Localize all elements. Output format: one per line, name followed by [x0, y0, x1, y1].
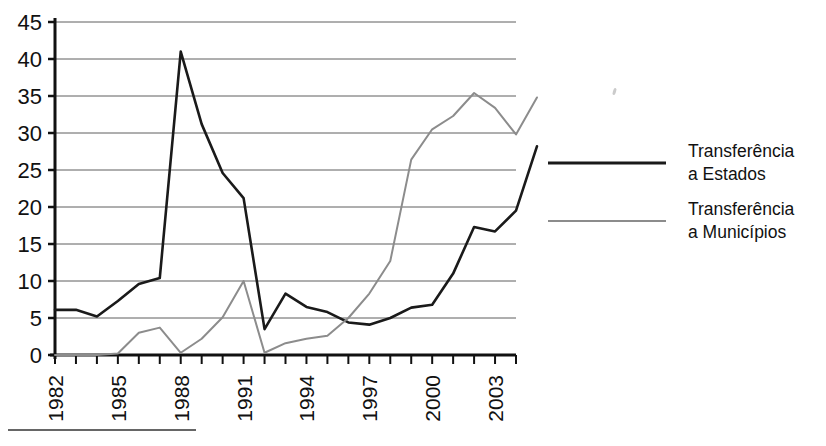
x-tick-label-2000: 2000	[421, 375, 444, 422]
y-tick-label-40: 40	[18, 47, 42, 72]
y-tick-label-10: 10	[18, 269, 42, 294]
y-tick-label-30: 30	[18, 121, 42, 146]
x-tick-label-2003: 2003	[484, 375, 507, 422]
x-tick-label-1991: 1991	[233, 375, 256, 422]
legend-label-estados: Transferência a Estados	[688, 140, 794, 186]
chart-series-lines	[55, 52, 537, 355]
legend-label-municipios: Transferência a Municípios	[688, 198, 794, 244]
x-tick-label-1985: 1985	[107, 375, 130, 422]
y-tick-label-15: 15	[18, 232, 42, 257]
x-tick-label-1994: 1994	[295, 375, 318, 422]
y-tick-label-5: 5	[30, 306, 42, 331]
x-tick-label-1988: 1988	[170, 375, 193, 422]
chart-x-tick-labels: 19821985198819911994199720002003	[44, 375, 507, 422]
y-tick-label-0: 0	[30, 343, 42, 368]
legend-line-swatch-municipios	[548, 214, 666, 228]
chart-gridlines	[55, 22, 516, 318]
series-line-estados	[55, 52, 537, 330]
series-line-municipios	[55, 93, 537, 355]
y-tick-label-35: 35	[18, 84, 42, 109]
y-tick-label-25: 25	[18, 158, 42, 183]
chart-legend: Transferência a Estados Transferência a …	[548, 140, 818, 256]
legend-item-municipios: Transferência a Municípios	[548, 198, 818, 244]
y-tick-label-20: 20	[18, 195, 42, 220]
x-tick-label-1997: 1997	[358, 375, 381, 422]
chart-figure: 051015202530354045 198219851988199119941…	[0, 0, 826, 446]
chart-axes	[48, 18, 516, 359]
x-tick-label-1982: 1982	[44, 375, 67, 422]
legend-item-estados: Transferência a Estados	[548, 140, 818, 186]
legend-line-swatch-estados	[548, 156, 666, 170]
chart-y-tick-labels: 051015202530354045	[18, 10, 42, 368]
y-tick-label-45: 45	[18, 10, 42, 35]
